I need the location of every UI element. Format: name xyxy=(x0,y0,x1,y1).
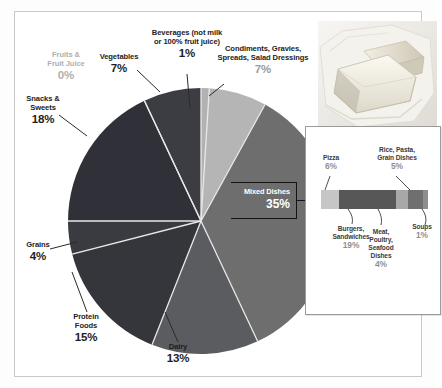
label-condiments: Condiments, Gravies, Spreads, Salad Dres… xyxy=(201,44,325,76)
label-protein-pct: 15% xyxy=(57,331,115,344)
label-grains-pct: 4% xyxy=(13,250,63,263)
mixed-dishes-pct: 35% xyxy=(231,197,290,211)
label-condiments-line1: Condiments, Gravies, xyxy=(225,44,301,53)
label-snacks-sweets: Snacks & Sweets 18% xyxy=(13,94,73,126)
mixed-dishes-callout[interactable]: Mixed Dishes 35% xyxy=(231,182,297,219)
inset-meat-line4: Dishes xyxy=(370,252,391,259)
label-dairy-pct: 13% xyxy=(149,352,207,365)
label-snacks-line1: Snacks & xyxy=(26,94,59,103)
inset-meat-line3: Seafood xyxy=(368,244,393,251)
mixed-dishes-label: Mixed Dishes xyxy=(231,187,290,196)
label-condiments-line2: Spreads, Salad Dressings xyxy=(218,53,309,62)
chart-frame: Beverages (not milk or 100% fruit juice)… xyxy=(14,11,422,377)
label-grains: Grains 4% xyxy=(13,240,63,263)
inset-meat-pct: 4% xyxy=(358,260,404,270)
label-protein-line1: Protein xyxy=(73,312,98,321)
inset-meat-line2: Poultry, xyxy=(369,236,392,243)
label-grains-line1: Grains xyxy=(26,240,49,249)
inset-pizza-pct: 6% xyxy=(310,162,352,172)
label-vegetables-line1: Vegetables xyxy=(100,52,139,61)
inset-meat-line1: Meat, xyxy=(373,228,389,235)
inset-rice-pct: 5% xyxy=(366,162,428,172)
inset-label-meat: Meat, Poultry, Seafood Dishes 4% xyxy=(358,228,404,270)
inset-label-pizza: Pizza 6% xyxy=(310,154,352,172)
inset-rice-line1: Rice, Pasta, xyxy=(379,146,415,153)
label-fruits-juice: Fruits & Fruit Juice 0% xyxy=(33,50,99,82)
butter-sticks-photo xyxy=(318,21,437,131)
inset-soups-name: Soups xyxy=(412,223,432,230)
label-beverages-line1: Beverages (not milk xyxy=(152,28,222,37)
inset-label-rice: Rice, Pasta, Grain Dishes 5% xyxy=(366,146,428,172)
label-condiments-pct: 7% xyxy=(201,63,325,76)
label-fruits-line2: Fruit Juice xyxy=(47,59,84,68)
label-fruits-line1: Fruits & xyxy=(52,50,80,59)
label-dairy-line1: Dairy xyxy=(169,342,188,351)
label-snacks-line2: Sweets xyxy=(30,103,56,112)
inset-label-soups: Soups 1% xyxy=(404,223,440,241)
inset-pizza-name: Pizza xyxy=(323,154,339,161)
label-dairy: Dairy 13% xyxy=(149,342,207,365)
inset-rice-line2: Grain Dishes xyxy=(377,154,416,161)
label-fruits-pct: 0% xyxy=(33,69,99,82)
label-protein-foods: Protein Foods 15% xyxy=(57,312,115,344)
inset-soups-pct: 1% xyxy=(404,231,440,241)
label-protein-line2: Foods xyxy=(75,321,97,330)
mixed-dishes-breakdown-panel: Pizza 6% Rice, Pasta, Grain Dishes 5% Bu… xyxy=(305,126,441,315)
label-snacks-pct: 18% xyxy=(13,113,73,126)
